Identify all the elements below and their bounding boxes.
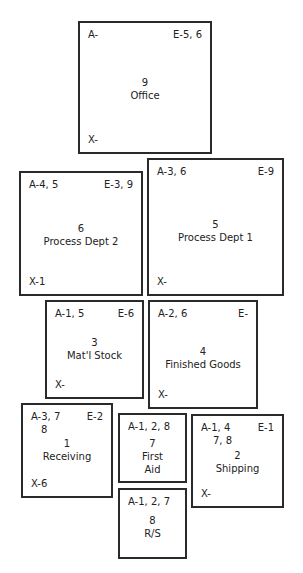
- dept-number: 9: [80, 76, 210, 89]
- x-relationship: X-: [88, 134, 98, 146]
- e-relationship: E-5, 6: [173, 29, 202, 41]
- dept-number: 2: [193, 449, 282, 462]
- dept-first-aid: A-1, 2, 8 7 First Aid: [118, 413, 187, 483]
- dept-name: Finished Goods: [150, 358, 256, 371]
- a-relationship: A-2, 6: [158, 308, 187, 320]
- dept-rs: A-1, 2, 7 8 R/S: [118, 488, 187, 559]
- a-relationship: A-4, 5: [29, 179, 58, 191]
- dept-process-2: A-4, 5 E-3, 9 6 Process Dept 2 X-1: [19, 171, 143, 296]
- dept-number: 7: [120, 437, 185, 450]
- dept-name: R/S: [120, 527, 185, 540]
- dept-shipping: A-1, 4 7, 8 E-1 2 Shipping X-: [191, 414, 284, 508]
- a-relationship: A-3, 7: [31, 411, 60, 423]
- dept-name-line1: First: [120, 450, 185, 463]
- a-relationship: A-1, 5: [55, 308, 84, 320]
- a-relationship: A-1, 2, 8: [128, 421, 170, 433]
- x-relationship: X-: [158, 389, 168, 401]
- dept-number: 5: [149, 218, 282, 231]
- x-relationship: X-: [157, 276, 167, 288]
- a-relationship-cont: 7, 8: [213, 435, 232, 447]
- e-relationship: E-: [238, 308, 248, 320]
- e-relationship: E-9: [258, 166, 274, 178]
- dept-receiving: A-3, 7 8 E-2 1 Receiving X-6: [21, 403, 113, 498]
- dept-number: 4: [150, 345, 256, 358]
- a-relationship: A-1, 2, 7: [128, 496, 170, 508]
- dept-name-line2: Aid: [120, 463, 185, 476]
- x-relationship: X-: [201, 488, 211, 500]
- e-relationship: E-1: [258, 422, 274, 434]
- a-relationship-cont: 8: [41, 424, 47, 436]
- dept-name: Shipping: [193, 462, 282, 475]
- x-relationship: X-6: [31, 478, 47, 490]
- x-relationship: X-: [55, 379, 65, 391]
- a-relationship: A-1, 4: [201, 422, 230, 434]
- dept-number: 6: [21, 222, 141, 235]
- dept-number: 8: [120, 514, 185, 527]
- a-relationship: A-3, 6: [157, 166, 186, 178]
- a-relationship: A-: [88, 29, 98, 41]
- e-relationship: E-3, 9: [104, 179, 133, 191]
- dept-name: Process Dept 1: [149, 231, 282, 244]
- dept-name: Mat'l Stock: [47, 349, 142, 362]
- e-relationship: E-2: [87, 411, 103, 423]
- dept-name: Process Dept 2: [21, 235, 141, 248]
- e-relationship: E-6: [118, 308, 134, 320]
- dept-process-1: A-3, 6 E-9 5 Process Dept 1 X-: [147, 158, 284, 296]
- dept-number: 3: [47, 336, 142, 349]
- dept-matl-stock: A-1, 5 E-6 3 Mat'l Stock X-: [45, 300, 144, 399]
- x-relationship: X-1: [29, 276, 45, 288]
- dept-name: Receiving: [23, 450, 111, 463]
- dept-finished-goods: A-2, 6 E- 4 Finished Goods X-: [148, 300, 258, 409]
- dept-number: 1: [23, 437, 111, 450]
- dept-office: A- E-5, 6 9 Office X-: [78, 21, 212, 154]
- dept-name: Office: [80, 89, 210, 102]
